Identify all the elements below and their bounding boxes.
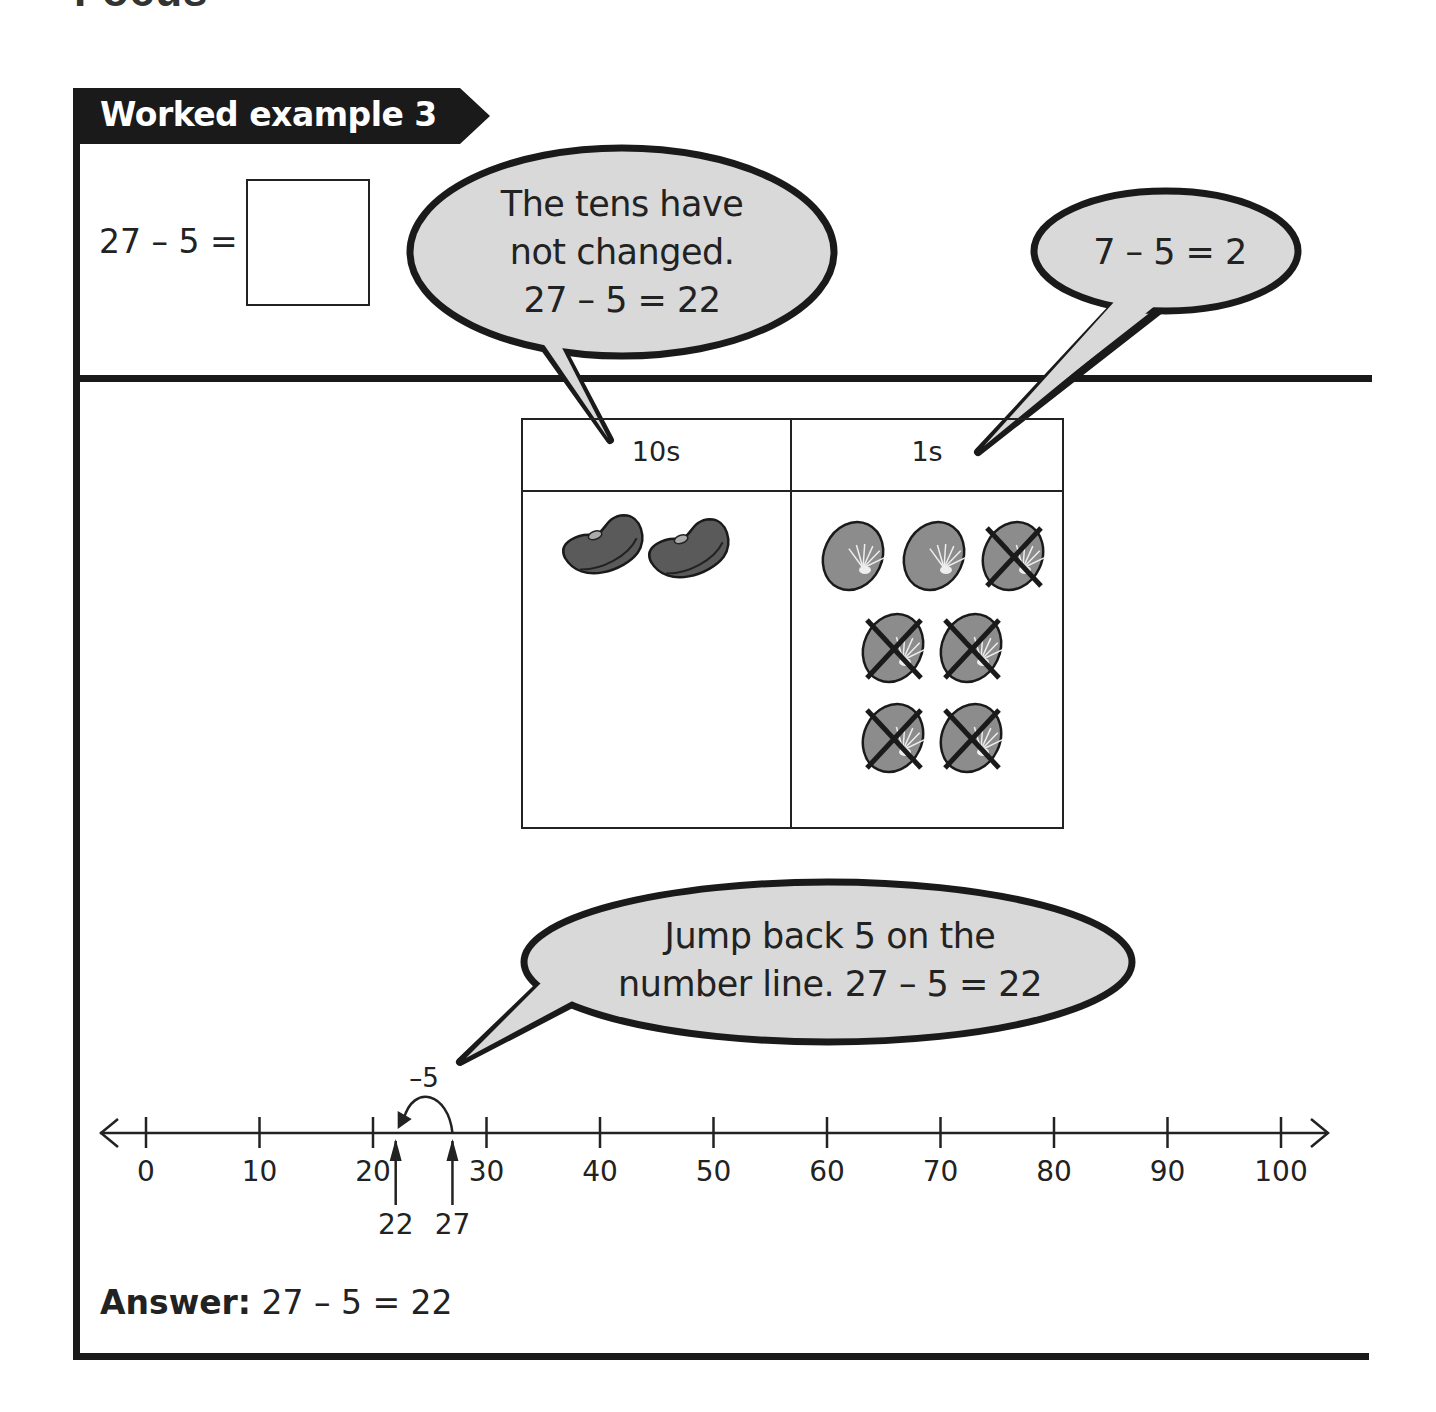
number-line-tick-label: 70 [923, 1155, 959, 1188]
answer-label: Answer: [100, 1283, 251, 1322]
number-line-tick-label: 30 [469, 1155, 505, 1188]
number-line-tick-label: 100 [1254, 1155, 1307, 1188]
marker-label: 27 [435, 1208, 471, 1241]
number-line-tick-label: 0 [137, 1155, 155, 1188]
answer-text: 27 – 5 = 22 [262, 1283, 453, 1322]
answer-statement: Answer: 27 – 5 = 22 [100, 1283, 453, 1322]
number-line-tick-label: 10 [242, 1155, 278, 1188]
number-line-tick-label: 90 [1150, 1155, 1186, 1188]
jump-label: –5 [409, 1063, 439, 1093]
number-line-marker: 27 [435, 1139, 471, 1241]
number-line-tick-label: 20 [355, 1155, 391, 1188]
number-line-tick-label: 80 [1036, 1155, 1072, 1188]
number-line-tick-label: 50 [696, 1155, 732, 1188]
up-arrow-icon [446, 1139, 458, 1161]
marker-label: 22 [378, 1208, 414, 1241]
number-line-tick-label: 60 [809, 1155, 845, 1188]
up-arrow-icon [390, 1139, 402, 1161]
jump-arc [398, 1097, 453, 1133]
number-line: 0102030405060708090100–52227 [0, 0, 1436, 1412]
number-line-tick-label: 40 [582, 1155, 618, 1188]
